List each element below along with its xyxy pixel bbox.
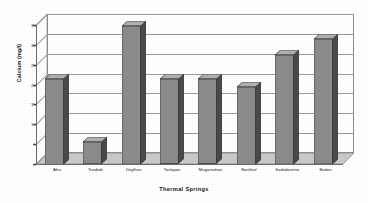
x-axis-title: Thermal Springs bbox=[0, 186, 368, 192]
y-tick-label: 20 bbox=[22, 82, 36, 87]
bar[interactable] bbox=[122, 21, 146, 164]
plot-area: 35302520151050 AfraTandiabDeylhonTaslapa… bbox=[36, 14, 354, 164]
gridline bbox=[47, 34, 354, 35]
bar-3d-shape bbox=[122, 21, 146, 164]
y-tick-depth-edge bbox=[36, 34, 48, 46]
bar-side-face bbox=[255, 82, 260, 164]
bar-front-face bbox=[160, 79, 178, 164]
bar-front-face bbox=[275, 55, 293, 164]
bar-front-face bbox=[122, 26, 140, 164]
bar-front-face bbox=[83, 142, 101, 164]
x-tick-label: Boden bbox=[300, 167, 352, 172]
bar-side-face bbox=[179, 74, 184, 164]
bar[interactable] bbox=[314, 34, 338, 164]
gridline bbox=[47, 14, 354, 15]
bar[interactable] bbox=[83, 137, 107, 164]
bar[interactable] bbox=[198, 74, 222, 164]
y-tick-label: 0 bbox=[22, 162, 36, 167]
bar-side-face bbox=[217, 74, 222, 164]
y-tick-label: 30 bbox=[22, 42, 36, 47]
bar-side-face bbox=[332, 34, 337, 164]
bar-3d-shape bbox=[198, 74, 222, 164]
bar-3d-shape bbox=[314, 34, 338, 164]
y-axis-line bbox=[36, 25, 37, 164]
y-tick-label: 35 bbox=[22, 23, 36, 28]
y-tick-depth-edge bbox=[36, 14, 48, 26]
y-tick-label: 5 bbox=[22, 142, 36, 147]
bar[interactable] bbox=[237, 82, 261, 164]
bar-3d-shape bbox=[237, 82, 261, 164]
bar-front-face bbox=[45, 79, 63, 164]
y-tick-label: 25 bbox=[22, 62, 36, 67]
gridline bbox=[47, 54, 354, 55]
bar-3d-shape bbox=[275, 50, 299, 164]
y-tick-label: 10 bbox=[22, 122, 36, 127]
bar[interactable] bbox=[160, 74, 184, 164]
bar-front-face bbox=[237, 87, 255, 164]
bar-chart: Calcium (mg/l) 35302520151050 AfraTandia… bbox=[0, 0, 368, 203]
bar-front-face bbox=[198, 79, 216, 164]
bar-front-face bbox=[314, 39, 332, 164]
bar[interactable] bbox=[275, 50, 299, 164]
bar-side-face bbox=[294, 50, 299, 164]
y-tick-depth-edge bbox=[36, 54, 48, 66]
bar-side-face bbox=[140, 21, 145, 164]
bar-3d-shape bbox=[160, 74, 184, 164]
bar-3d-shape bbox=[45, 74, 69, 164]
bar[interactable] bbox=[45, 74, 69, 164]
bar-side-face bbox=[63, 74, 68, 164]
bar-3d-shape bbox=[83, 137, 107, 164]
y-tick-label: 15 bbox=[22, 102, 36, 107]
x-axis-line bbox=[36, 164, 343, 165]
